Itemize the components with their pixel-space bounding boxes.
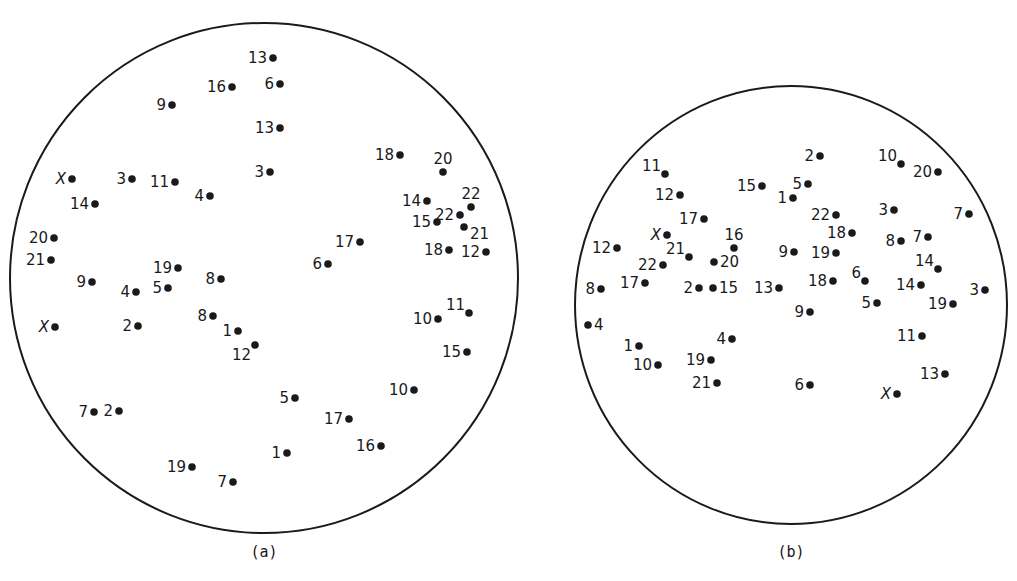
data-point: X bbox=[38, 318, 59, 336]
point-marker-icon bbox=[439, 168, 447, 176]
point-marker-icon bbox=[663, 231, 671, 239]
point-label: 9 bbox=[76, 273, 86, 291]
data-point: 8 bbox=[885, 232, 904, 250]
panel-b: 210201115511222371718X871612919212022141… bbox=[575, 86, 1007, 561]
point-marker-icon bbox=[790, 248, 798, 256]
data-point: 21 bbox=[26, 251, 55, 269]
data-point: 10 bbox=[633, 356, 662, 374]
point-marker-icon bbox=[433, 218, 441, 226]
point-label: 9 bbox=[778, 243, 788, 261]
point-marker-icon bbox=[893, 390, 901, 398]
point-label: 15 bbox=[442, 343, 461, 361]
point-marker-icon bbox=[276, 124, 284, 132]
point-label: 14 bbox=[896, 276, 915, 294]
point-label: 16 bbox=[207, 78, 226, 96]
data-point: 6 bbox=[312, 255, 331, 273]
point-label: 12 bbox=[461, 243, 480, 261]
data-point: 4 bbox=[120, 283, 139, 301]
data-point: 14 bbox=[402, 192, 431, 210]
data-point: 11 bbox=[150, 173, 179, 191]
data-point: 21 bbox=[460, 223, 489, 243]
data-point: 15 bbox=[709, 279, 738, 297]
point-marker-icon bbox=[613, 244, 621, 252]
point-marker-icon bbox=[775, 284, 783, 292]
data-point: 4 bbox=[584, 316, 603, 334]
point-marker-icon bbox=[445, 246, 453, 254]
point-label: 2 bbox=[122, 317, 132, 335]
data-point: 18 bbox=[827, 224, 856, 242]
point-marker-icon bbox=[816, 152, 824, 160]
point-label: 12 bbox=[655, 186, 674, 204]
point-marker-icon bbox=[423, 197, 431, 205]
data-point: 16 bbox=[724, 226, 743, 252]
point-label: 2 bbox=[683, 279, 693, 297]
data-point: 7 bbox=[912, 228, 931, 246]
point-label: X bbox=[650, 226, 662, 244]
data-point: 3 bbox=[878, 201, 897, 219]
point-label: 10 bbox=[878, 147, 897, 165]
point-marker-icon bbox=[641, 279, 649, 287]
point-label: 14 bbox=[402, 192, 421, 210]
point-label: 18 bbox=[375, 146, 394, 164]
point-label: 18 bbox=[424, 241, 443, 259]
point-label: 21 bbox=[666, 240, 685, 258]
point-marker-icon bbox=[115, 407, 123, 415]
data-point: 22 bbox=[461, 185, 480, 211]
point-label: 10 bbox=[389, 381, 408, 399]
data-point: 4 bbox=[716, 330, 735, 348]
point-marker-icon bbox=[217, 275, 225, 283]
point-marker-icon bbox=[789, 194, 797, 202]
point-label: 17 bbox=[679, 210, 698, 228]
data-point: 1 bbox=[271, 444, 290, 462]
point-marker-icon bbox=[685, 253, 693, 261]
point-label: 13 bbox=[920, 365, 939, 383]
point-label: 17 bbox=[324, 410, 343, 428]
point-label: 6 bbox=[312, 255, 322, 273]
data-point: 13 bbox=[248, 49, 277, 67]
data-point: 2 bbox=[103, 402, 122, 420]
point-marker-icon bbox=[635, 342, 643, 350]
point-label: 21 bbox=[470, 225, 489, 243]
point-label: 8 bbox=[197, 307, 207, 325]
point-marker-icon bbox=[941, 370, 949, 378]
point-label: 12 bbox=[592, 239, 611, 257]
data-point: 8 bbox=[585, 280, 604, 298]
point-label: 18 bbox=[827, 224, 846, 242]
panel-a: 131669133X31141420211989458X211272511971… bbox=[10, 23, 518, 561]
point-marker-icon bbox=[276, 80, 284, 88]
point-marker-icon bbox=[345, 415, 353, 423]
point-marker-icon bbox=[132, 288, 140, 296]
point-label: 12 bbox=[232, 346, 251, 364]
point-label: 3 bbox=[969, 281, 979, 299]
point-label: X bbox=[55, 170, 67, 188]
data-point: 18 bbox=[375, 146, 404, 164]
point-marker-icon bbox=[206, 192, 214, 200]
data-point: 3 bbox=[969, 281, 988, 299]
point-label: 19 bbox=[153, 259, 172, 277]
point-label: 17 bbox=[620, 274, 639, 292]
point-label: 20 bbox=[913, 163, 932, 181]
point-marker-icon bbox=[266, 168, 274, 176]
data-point: 5 bbox=[861, 294, 880, 312]
data-point: 6 bbox=[851, 264, 868, 285]
point-marker-icon bbox=[829, 277, 837, 285]
point-label: 1 bbox=[222, 322, 232, 340]
point-label: 13 bbox=[255, 119, 274, 137]
point-label: 16 bbox=[724, 226, 743, 244]
point-marker-icon bbox=[804, 180, 812, 188]
point-marker-icon bbox=[806, 381, 814, 389]
point-label: 4 bbox=[194, 187, 204, 205]
point-label: 14 bbox=[915, 252, 934, 270]
point-marker-icon bbox=[890, 206, 898, 214]
point-marker-icon bbox=[171, 178, 179, 186]
point-marker-icon bbox=[174, 264, 182, 272]
data-point: 22 bbox=[811, 206, 840, 224]
point-label: 22 bbox=[638, 256, 657, 274]
data-point: 13 bbox=[754, 279, 783, 297]
data-point: 15 bbox=[442, 343, 471, 361]
point-marker-icon bbox=[90, 408, 98, 416]
point-label: 20 bbox=[433, 150, 452, 168]
data-point: 8 bbox=[205, 270, 224, 288]
point-label: 5 bbox=[792, 175, 802, 193]
point-marker-icon bbox=[832, 249, 840, 257]
